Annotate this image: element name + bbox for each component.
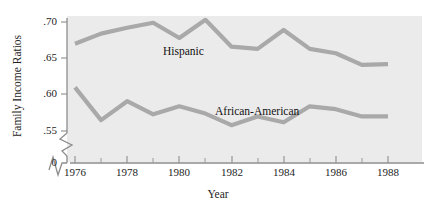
y-tick-label-0: 0: [33, 156, 57, 168]
y-axis-title: Family Income Ratios: [11, 21, 23, 151]
x-tick-label-1978: 1978: [107, 166, 147, 178]
y-tick-label-55: .55: [33, 124, 57, 136]
x-tick-label-1986: 1986: [316, 166, 356, 178]
x-axis-title: Year: [0, 188, 436, 200]
y-tick-label-65: .65: [33, 51, 57, 63]
series-label-hispanic: Hispanic: [163, 45, 204, 57]
y-axis-break-zigzag: [60, 133, 72, 156]
x-tick-label-1976: 1976: [55, 166, 95, 178]
x-tick-label-1984: 1984: [264, 166, 304, 178]
chart-figure: .70 .65 .60 .55 0 1976 1978 1980 1982 19…: [0, 0, 436, 206]
y-tick-label-70: .70: [33, 15, 57, 27]
series-line-hispanic: [75, 20, 388, 65]
y-axis-group: [60, 18, 72, 163]
x-tick-label-1982: 1982: [212, 166, 252, 178]
x-tick-label-1980: 1980: [159, 166, 199, 178]
series-label-african-american: African-American: [215, 105, 299, 117]
y-tick-label-60: .60: [33, 87, 57, 99]
x-tick-label-1988: 1988: [368, 166, 408, 178]
